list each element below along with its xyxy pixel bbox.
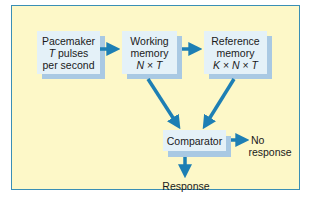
flow-arrows [0,0,316,201]
arrow-reference-to-comparator [206,79,234,124]
arrow-working-to-comparator [148,79,177,124]
